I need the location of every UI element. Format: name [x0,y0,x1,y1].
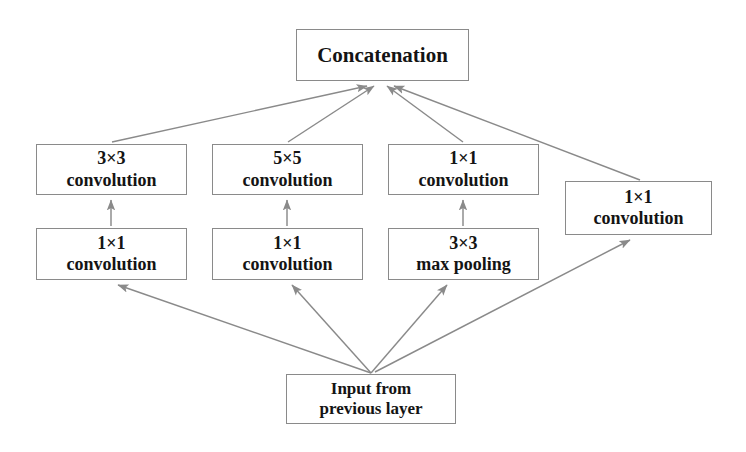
node-conv-3x3-line2: convolution [66,170,156,191]
node-conv-1x1-top-line2: convolution [418,170,508,191]
edge-conv3x3-to-concat [112,86,367,142]
edge-input-to-reduce1x1-b [292,285,371,373]
node-max-pooling-3x3-line1: 3×3 [449,233,477,254]
node-input-previous-layer[interactable]: Input from previous layer [286,374,456,424]
node-conv-1x1-reduce-a[interactable]: 1×1 convolution [36,228,187,280]
node-conv-1x1-right-line2: convolution [593,208,683,229]
node-conv-5x5-line1: 5×5 [273,148,301,169]
node-concatenation-label: Concatenation [317,43,448,68]
node-conv-1x1-top[interactable]: 1×1 convolution [388,144,539,195]
node-conv-1x1-reduce-b[interactable]: 1×1 convolution [212,228,363,280]
node-input-previous-layer-line1: Input from [331,379,411,399]
edge-input-to-reduce1x1-a [118,285,371,373]
node-concatenation[interactable]: Concatenation [296,29,469,81]
node-conv-5x5-line2: convolution [242,170,332,191]
node-conv-1x1-right-line1: 1×1 [624,187,652,208]
node-conv-5x5[interactable]: 5×5 convolution [212,144,363,195]
edge-input-to-maxpool [371,285,447,373]
node-max-pooling-3x3[interactable]: 3×3 max pooling [388,228,539,280]
edge-conv1x1-top-to-concat [387,86,463,142]
node-conv-1x1-top-line1: 1×1 [449,148,477,169]
node-conv-1x1-reduce-a-line1: 1×1 [97,233,125,254]
node-conv-1x1-reduce-b-line1: 1×1 [273,233,301,254]
node-conv-1x1-right[interactable]: 1×1 convolution [565,181,712,235]
node-conv-1x1-reduce-a-line2: convolution [66,254,156,275]
diagram-canvas: Concatenation 3×3 convolution 5×5 convol… [0,0,746,452]
node-conv-3x3[interactable]: 3×3 convolution [36,144,187,195]
node-max-pooling-3x3-line2: max pooling [416,254,511,275]
node-conv-3x3-line1: 3×3 [97,148,125,169]
node-input-previous-layer-line2: previous layer [319,399,422,419]
node-conv-1x1-reduce-b-line2: convolution [242,254,332,275]
edge-conv5x5-to-concat [288,86,374,142]
